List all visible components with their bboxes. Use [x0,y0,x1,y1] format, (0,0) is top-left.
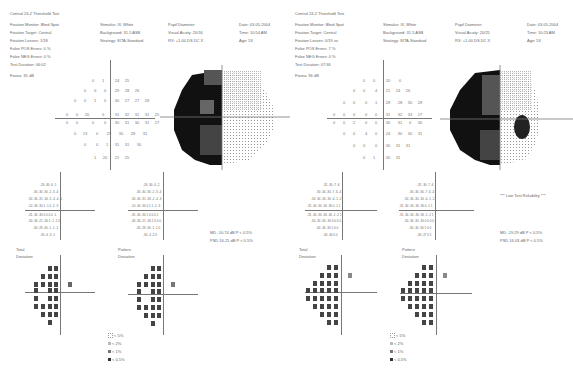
md-value: MD -10.74 dB P < 0.5% [210,230,252,235]
md-value: MD -19.29 dB P < 0.5% [500,230,542,235]
test-title: Central 24-2 Threshold Test [295,11,344,16]
reliability-warning: *** Low Test Reliability *** [500,193,546,198]
test-title: Central 24-2 Threshold Test [10,11,59,16]
right-eye-report: Central 24-2 Threshold Test Fixation Mon… [287,0,573,372]
psd-value: PSD 16.03 dB P < 0.5% [500,238,543,243]
left-eye-report: Central 24-2 Threshold Test Fixation Mon… [0,0,286,372]
psd-value: PSD 16.21 dB P < 0.5% [210,238,253,243]
